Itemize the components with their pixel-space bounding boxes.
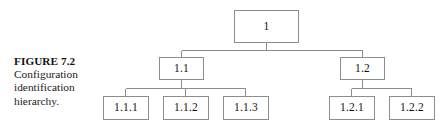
tree-node-1-1[interactable]: 1.1 bbox=[159, 57, 204, 80]
tree-node-1-2[interactable]: 1.2 bbox=[340, 57, 385, 80]
tree-node-label: 1.2 bbox=[355, 63, 370, 75]
tree-node-label: 1.1 bbox=[174, 63, 189, 75]
tree-node-label: 1.2.1 bbox=[340, 102, 364, 114]
tree-node-1-1-1[interactable]: 1.1.1 bbox=[103, 96, 149, 120]
tree-node-label: 1.2.2 bbox=[400, 102, 424, 114]
tree-node-1-2-2[interactable]: 1.2.2 bbox=[389, 96, 435, 120]
tree-node-label: 1.1.2 bbox=[174, 102, 198, 114]
tree-node-1[interactable]: 1 bbox=[234, 10, 299, 43]
figure-container: FIGURE 7.2 Configuration identification … bbox=[0, 0, 448, 129]
tree-node-1-1-2[interactable]: 1.1.2 bbox=[163, 96, 209, 120]
tree-node-label: 1.1.1 bbox=[114, 102, 138, 114]
tree-node-label: 1.1.3 bbox=[234, 102, 258, 114]
tree-node-1-1-3[interactable]: 1.1.3 bbox=[223, 96, 269, 120]
tree-node-label: 1 bbox=[264, 21, 270, 33]
tree-node-1-2-1[interactable]: 1.2.1 bbox=[329, 96, 375, 120]
hierarchy-tree-diagram: 1 1.1 1.2 1.1.1 1.1.2 1.1.3 1.2.1 1.2.2 bbox=[0, 0, 448, 129]
